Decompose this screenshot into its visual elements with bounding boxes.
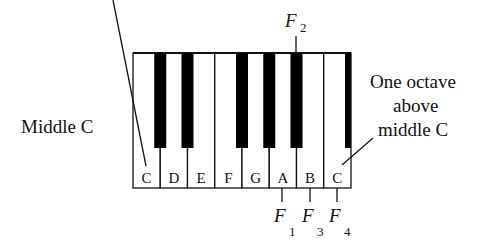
key-letter-a-5: A: [277, 170, 288, 186]
f4-label-sub: 4: [344, 224, 351, 239]
f3-label-sub: 3: [317, 224, 324, 239]
key-letter-e-2: E: [197, 170, 206, 186]
key-letter-f-3: F: [224, 170, 232, 186]
piano-diagram: CDEFGABC Middle C One octave above middl…: [0, 0, 490, 252]
key-letter-c-0: C: [142, 170, 152, 186]
black-key-f-sharp-2: [236, 53, 248, 148]
f3-label-letter: F: [301, 205, 314, 226]
octave-label-line-3: middle C: [378, 119, 448, 140]
octave-label-line-1: One octave: [370, 71, 456, 92]
f2-label-sub: 2: [300, 20, 307, 35]
black-key-c-sharp-0: [154, 53, 166, 148]
keyboard: CDEFGABC: [133, 53, 351, 188]
f2-label-letter: F: [284, 10, 297, 31]
f1-label-sub: 1: [289, 224, 296, 239]
f1-label-letter: F: [273, 205, 286, 226]
key-letter-d-1: D: [168, 170, 179, 186]
black-key-c-sharp-5: [345, 53, 351, 148]
black-key-d-sharp-1: [182, 53, 194, 148]
middle-c-label: Middle C: [21, 116, 93, 137]
black-key-a-sharp-4: [291, 53, 303, 148]
key-letter-b-6: B: [305, 170, 315, 186]
key-letter-g-4: G: [250, 170, 261, 186]
f4-label-letter: F: [328, 205, 341, 226]
key-letter-c-7: C: [332, 170, 342, 186]
octave-label-line-2: above: [393, 95, 438, 116]
black-key-g-sharp-3: [263, 53, 275, 148]
